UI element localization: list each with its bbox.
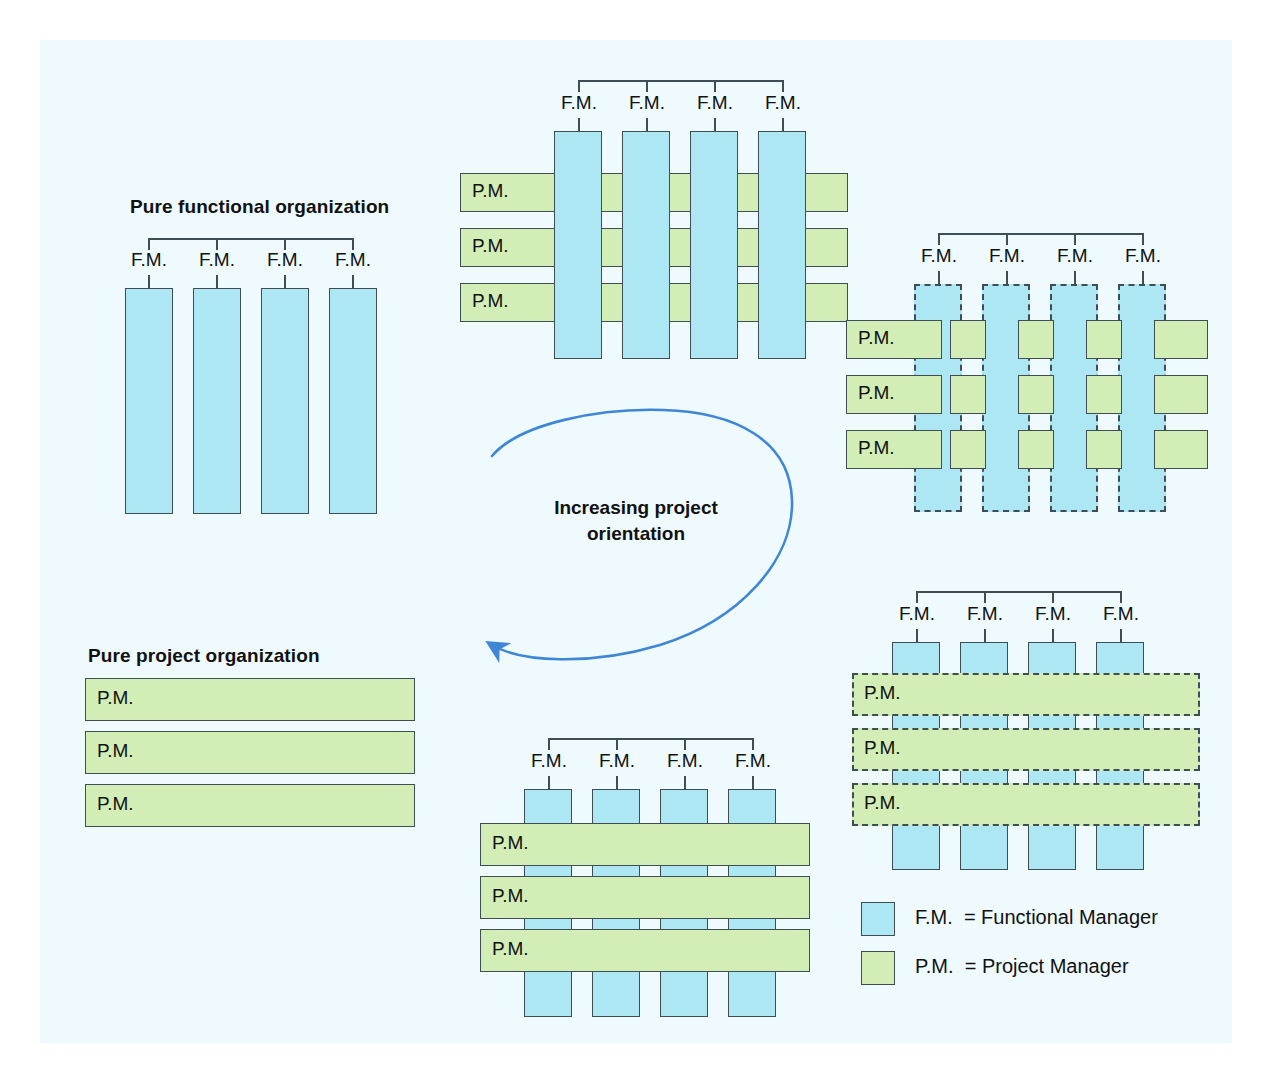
- pm-label: P.M.: [864, 792, 901, 814]
- fm-label: F.M.: [322, 249, 384, 271]
- fm-stem: [938, 271, 940, 284]
- fm-stem: [548, 776, 550, 789]
- tree-drop: [916, 591, 918, 603]
- fm-stem: [616, 776, 618, 789]
- tree-bar: [916, 591, 1121, 593]
- tree-bar: [578, 80, 783, 82]
- pm-label: P.M.: [864, 682, 901, 704]
- pm-row-segment: [950, 375, 986, 414]
- tree-drop: [616, 738, 618, 750]
- center-caption: Increasing project orientation: [531, 495, 741, 546]
- fm-label: F.M.: [886, 603, 948, 625]
- diagram-canvas: Pure functional organization F.M. F.M. F…: [0, 0, 1269, 1070]
- pm-label: P.M.: [472, 235, 509, 257]
- fm-label: F.M.: [908, 245, 970, 267]
- pm-row-band: [480, 823, 810, 866]
- pm-row-segment: [1086, 320, 1122, 359]
- fm-label: F.M.: [1090, 603, 1152, 625]
- fm-label: F.M.: [186, 249, 248, 271]
- pm-label: P.M.: [858, 382, 895, 404]
- fm-stem: [1142, 271, 1144, 284]
- pm-row-band: [852, 728, 1200, 771]
- fm-label: F.M.: [518, 750, 580, 772]
- fm-stem: [646, 118, 648, 131]
- fm-stem: [1052, 629, 1054, 642]
- tree-drop: [1142, 233, 1144, 245]
- fm-stem: [684, 776, 686, 789]
- pm-label: P.M.: [492, 832, 529, 854]
- tree-drop: [984, 591, 986, 603]
- fm-label: F.M.: [722, 750, 784, 772]
- pm-label: P.M.: [472, 290, 509, 312]
- tree-drop: [782, 80, 784, 92]
- pm-row-band: [852, 783, 1200, 826]
- tree-drop: [684, 738, 686, 750]
- fm-label: F.M.: [1112, 245, 1174, 267]
- pm-row-band: [852, 673, 1200, 716]
- fm-column: [261, 288, 309, 514]
- fm-column: [622, 131, 670, 359]
- pm-row-band: [85, 678, 415, 721]
- fm-label: F.M.: [616, 92, 678, 114]
- tree-drop: [1074, 233, 1076, 245]
- pm-label: P.M.: [97, 740, 134, 762]
- pm-label: P.M.: [864, 737, 901, 759]
- pm-row-segment: [950, 430, 986, 469]
- tree-drop: [578, 80, 580, 92]
- legend-text-pm: P.M. = Project Manager: [915, 955, 1129, 978]
- pm-row-segment: [1018, 375, 1054, 414]
- fm-stem: [148, 275, 150, 288]
- tree-bar: [548, 738, 753, 740]
- fm-column: [329, 288, 377, 514]
- fm-stem: [1006, 271, 1008, 284]
- fm-stem: [714, 118, 716, 131]
- tree-drop: [1006, 233, 1008, 245]
- fm-column: [125, 288, 173, 514]
- fm-stem: [782, 118, 784, 131]
- tree-drop: [1120, 591, 1122, 603]
- fm-stem: [916, 629, 918, 642]
- pm-row-segment: [1086, 375, 1122, 414]
- tree-drop: [714, 80, 716, 92]
- fm-stem: [284, 275, 286, 288]
- pm-label: P.M.: [492, 938, 529, 960]
- pm-row-segment: [1154, 320, 1208, 359]
- fm-label: F.M.: [954, 603, 1016, 625]
- fm-stem: [984, 629, 986, 642]
- pure-project-title: Pure project organization: [88, 645, 320, 667]
- fm-column: [758, 131, 806, 359]
- fm-label: F.M.: [752, 92, 814, 114]
- tree-drop: [646, 80, 648, 92]
- fm-label: F.M.: [654, 750, 716, 772]
- fm-label: F.M.: [1044, 245, 1106, 267]
- tree-drop: [752, 738, 754, 750]
- fm-column: [554, 131, 602, 359]
- pm-row-band: [85, 731, 415, 774]
- fm-label: F.M.: [118, 249, 180, 271]
- pm-label: P.M.: [492, 885, 529, 907]
- fm-column: [193, 288, 241, 514]
- fm-label: F.M.: [1022, 603, 1084, 625]
- fm-label: F.M.: [548, 92, 610, 114]
- legend-swatch-fm: [861, 902, 895, 936]
- fm-label: F.M.: [684, 92, 746, 114]
- fm-label: F.M.: [254, 249, 316, 271]
- tree-bar: [148, 238, 353, 240]
- legend-text-fm: F.M. = Functional Manager: [915, 906, 1158, 929]
- pm-label: P.M.: [858, 327, 895, 349]
- pm-row-segment: [950, 320, 986, 359]
- pm-row-segment: [1086, 430, 1122, 469]
- pm-row-segment: [1154, 375, 1208, 414]
- pm-row-band: [480, 929, 810, 972]
- pm-row-band: [480, 876, 810, 919]
- pm-row-segment: [1018, 320, 1054, 359]
- fm-label: F.M.: [976, 245, 1038, 267]
- fm-stem: [752, 776, 754, 789]
- legend-swatch-pm: [861, 951, 895, 985]
- fm-stem: [578, 118, 580, 131]
- pure-functional-title: Pure functional organization: [130, 196, 389, 218]
- pm-label: P.M.: [472, 180, 509, 202]
- fm-stem: [352, 275, 354, 288]
- fm-stem: [1120, 629, 1122, 642]
- pm-row-segment: [1018, 430, 1054, 469]
